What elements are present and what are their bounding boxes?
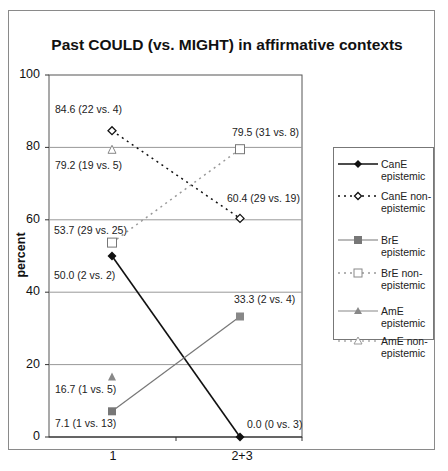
square-filled-marker-icon bbox=[108, 407, 116, 415]
data-label: 0.0 (0 vs. 3) bbox=[247, 418, 302, 430]
square-open-marker-icon bbox=[236, 145, 245, 154]
data-label: 7.1 (1 vs. 13) bbox=[55, 417, 116, 429]
square-filled-marker-icon bbox=[236, 313, 244, 321]
data-label: 60.4 (29 vs. 19) bbox=[227, 192, 300, 204]
data-label: 50.0 (2 vs. 2) bbox=[54, 269, 115, 281]
legend: CanE epistemic CanE non-epistemic BrE ep… bbox=[333, 147, 434, 340]
dashed-line-triangle-open-icon bbox=[334, 331, 380, 351]
y-axis-title: percent bbox=[14, 232, 28, 277]
x-tick-1: 1 bbox=[93, 449, 133, 463]
y-tick-80: 80 bbox=[10, 139, 40, 153]
x-tick-2-3: 2+3 bbox=[222, 449, 262, 463]
data-label: 79.2 (19 vs. 5) bbox=[55, 159, 122, 171]
legend-item-bre-epistemic: BrE epistemic bbox=[334, 230, 434, 262]
legend-item-cane-non-epistemic: CanE non-epistemic bbox=[334, 186, 434, 218]
y-tick-60: 60 bbox=[10, 212, 40, 226]
solid-line-triangle-icon bbox=[334, 301, 380, 321]
legend-item-ame-epistemic: AmE epistemic bbox=[334, 301, 434, 333]
data-label: 16.7 (1 vs. 5) bbox=[55, 383, 116, 395]
square-open-marker-icon bbox=[108, 238, 117, 247]
data-label: 53.7 (29 vs. 25) bbox=[54, 224, 127, 236]
solid-line-diamond-icon bbox=[334, 154, 380, 174]
dotted-line-square-open-icon bbox=[334, 263, 380, 283]
data-label: 79.5 (31 vs. 8) bbox=[232, 126, 299, 138]
solid-line-square-icon bbox=[334, 230, 380, 250]
legend-item-ame-non-epistemic: AmE non-epistemic bbox=[334, 331, 434, 363]
legend-item-cane-epistemic: CanE epistemic bbox=[334, 154, 434, 186]
y-tick-0: 0 bbox=[10, 429, 40, 443]
y-tick-40: 40 bbox=[10, 284, 40, 298]
dashed-line-diamond-open-icon bbox=[334, 186, 380, 206]
y-tick-20: 20 bbox=[10, 357, 40, 371]
data-label: 84.6 (22 vs. 4) bbox=[55, 103, 122, 115]
y-tick-100: 100 bbox=[10, 67, 40, 81]
data-label: 33.3 (2 vs. 4) bbox=[234, 293, 295, 305]
legend-item-bre-non-epistemic: BrE non-epistemic bbox=[334, 263, 434, 295]
